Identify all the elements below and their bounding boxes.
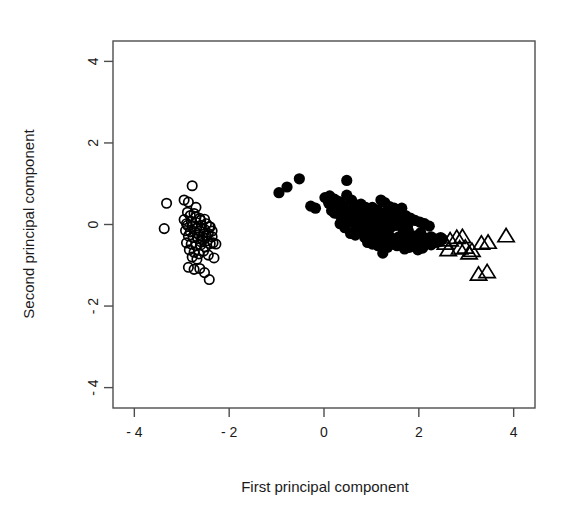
y-tick-label: - 4 xyxy=(85,379,101,396)
x-axis-label: First principal component xyxy=(241,478,409,495)
data-point-filled-circle xyxy=(412,244,423,255)
data-point-filled-circle xyxy=(402,221,413,232)
data-point-filled-circle xyxy=(363,206,374,217)
x-tick-label: 2 xyxy=(415,424,423,440)
data-point-filled-circle xyxy=(335,218,346,229)
data-point-filled-circle xyxy=(367,238,378,249)
x-tick-label: - 4 xyxy=(126,424,143,440)
data-point-filled-circle xyxy=(350,230,361,241)
data-point-filled-circle xyxy=(353,207,364,218)
data-point-filled-circle xyxy=(326,205,337,216)
scatter-plot-figure: - 4- 2024- 4- 2024 First principal compo… xyxy=(0,0,569,516)
y-tick-label: 2 xyxy=(85,139,101,147)
figure-background xyxy=(0,0,569,516)
y-axis-label: Second principal component xyxy=(20,129,37,319)
x-tick-label: 4 xyxy=(510,424,518,440)
data-point-filled-circle xyxy=(396,203,407,214)
x-tick-label: - 2 xyxy=(221,424,238,440)
y-tick-label: 0 xyxy=(85,220,101,228)
data-point-filled-circle xyxy=(294,173,305,184)
y-tick-label: - 2 xyxy=(85,298,101,315)
data-point-filled-circle xyxy=(424,221,435,232)
plot-canvas: - 4- 2024- 4- 2024 First principal compo… xyxy=(0,0,569,516)
data-point-filled-circle xyxy=(310,203,321,214)
data-point-filled-circle xyxy=(341,175,352,186)
y-tick-label: 4 xyxy=(85,57,101,65)
data-point-filled-circle xyxy=(281,181,292,192)
data-point-filled-circle xyxy=(375,194,386,205)
x-tick-label: 0 xyxy=(320,424,328,440)
